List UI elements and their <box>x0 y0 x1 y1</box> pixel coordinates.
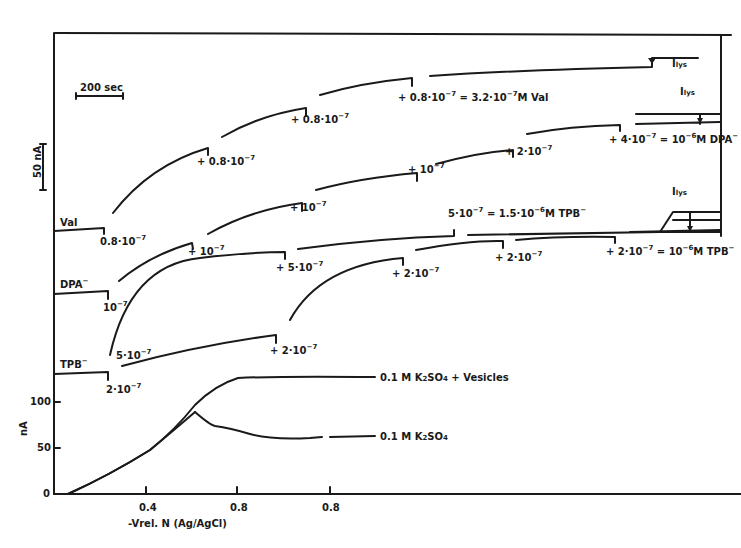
val-add-2: + 0.8·10−7 <box>197 156 255 167</box>
val-add-1: 0.8·10−7 <box>100 236 146 247</box>
dpa-add-5: + 2·10−7 <box>505 146 552 157</box>
dpa-add-6: + 4·10−7 = 10−6M DPA− <box>609 134 738 145</box>
x-tick-0-8b: 0.8 <box>322 502 340 513</box>
y-axis-label: nA <box>18 421 29 436</box>
ilys-arrow-val <box>648 58 656 64</box>
tpb-add-7: + 2·10−7 <box>495 252 542 263</box>
time-scale-bar <box>76 93 123 99</box>
dpa-add-3: + 10−7 <box>290 202 327 213</box>
y-tick-50: 50 <box>37 442 51 453</box>
val-add-4: + 0.8·10−7 = 3.2·10−7M Val <box>398 92 548 103</box>
dpa-add-1: 10−7 <box>103 302 128 313</box>
x-tick-0-4: 0.4 <box>139 502 157 513</box>
tpb-add-1: 2·10−7 <box>106 384 141 395</box>
val-trace <box>54 58 698 234</box>
tpb-add-6: + 2·10−7 <box>392 268 439 279</box>
curve-common <box>68 412 195 494</box>
tpb-add-2: 5·10−7 <box>116 350 151 361</box>
tpb-trace-a <box>54 212 720 380</box>
dpa-add-4: + 10−7 <box>408 164 445 175</box>
curve-k2so4 <box>195 412 375 439</box>
ilys-label-dpa: Ilys <box>680 86 695 97</box>
tpb-add-4: 5·10−7 = 1.5·10−6M TPB− <box>448 208 586 219</box>
time-scale-label: 200 sec <box>80 82 123 93</box>
y-tick-100: 100 <box>30 396 51 407</box>
val-label: Val <box>60 217 77 228</box>
legend-vesicles: 0.1 M K2SO4 + Vesicles <box>380 372 509 383</box>
tpb-add-8: + 2·10−7 = 10−6M TPB− <box>606 246 734 257</box>
x-tick-0-8a: 0.8 <box>230 502 248 513</box>
ilys-label-val: Ilys <box>672 58 687 69</box>
frame-top <box>55 33 731 35</box>
ilys-label-tpb: Ilys <box>672 186 687 197</box>
x-axis-label: -Vrel. N (Ag/AgCl) <box>128 518 227 529</box>
dpa-label: DPA− <box>60 279 88 290</box>
iv-x-ticks <box>146 487 330 494</box>
tpb-add-5: + 2·10−7 <box>270 345 317 356</box>
tpb-add-3: + 5·10−7 <box>276 262 323 273</box>
y-tick-0: 0 <box>43 488 50 499</box>
val-add-3: + 0.8·10−7 <box>291 114 349 125</box>
current-scale-label: 50 nA <box>32 146 43 178</box>
tpb-label: TPB− <box>60 359 88 370</box>
legend-k2so4: 0.1 M K2SO4 <box>380 431 448 442</box>
dpa-add-2: + 10−7 <box>188 246 225 257</box>
